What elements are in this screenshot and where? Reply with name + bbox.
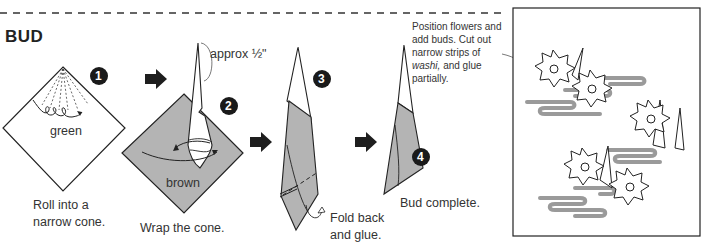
step1-caption: Roll into a narrow cone. — [33, 197, 105, 231]
step2-number: 2 — [225, 99, 232, 113]
final-instruction-note: Position flowers and add buds. Cut out n… — [412, 20, 512, 85]
note-line4: washi, and glue — [412, 59, 512, 72]
step1-caption-line2: narrow cone. — [33, 214, 105, 231]
arrow-right-icon — [250, 132, 272, 152]
arrow-right-icon — [355, 132, 377, 152]
step3-caption-line2: and glue. — [330, 227, 384, 244]
measurement-label: approx ½" — [210, 46, 267, 63]
step1-caption-line1: Roll into a — [33, 197, 105, 214]
section-title: BUD — [5, 27, 43, 47]
step3-caption-line1: Fold back — [330, 210, 384, 227]
note-line4-text: and glue — [443, 60, 481, 71]
note-line3: narrow strips of — [412, 46, 512, 59]
instruction-diagram — [0, 0, 704, 245]
note-line2: add buds. Cut out — [412, 33, 512, 46]
final-arrangement-illustration — [513, 8, 700, 236]
paper-color-label-brown: brown — [166, 175, 200, 192]
step3-caption: Fold back and glue. — [330, 210, 384, 244]
step2-caption: Wrap the cone. — [140, 220, 225, 237]
step4-caption: Bud complete. — [400, 195, 480, 212]
arrow-right-icon — [145, 69, 167, 89]
paper-color-label-green: green — [50, 123, 82, 140]
note-line1: Position flowers and — [412, 20, 512, 33]
note-italic-washi: washi, — [412, 60, 440, 71]
step4-number: 4 — [417, 150, 424, 164]
step3-number: 3 — [318, 72, 325, 86]
note-line5: partially. — [412, 72, 512, 85]
step1-number: 1 — [95, 69, 102, 83]
